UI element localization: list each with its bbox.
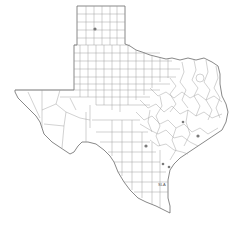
coastal-label: SLA <box>158 182 166 187</box>
texas-county-map: SLA <box>0 0 245 234</box>
marker-central-texas <box>144 144 147 147</box>
marker-east-central <box>182 121 185 124</box>
marker-coastal-2 <box>168 166 171 169</box>
marker-panhandle <box>93 27 96 30</box>
marker-southeast <box>196 134 199 137</box>
marker-coastal-1 <box>162 163 165 166</box>
texas-state-outline <box>15 6 228 213</box>
